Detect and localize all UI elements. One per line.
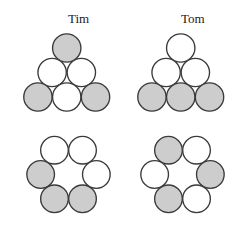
tim-ring-circle-bottom-right [69,185,97,213]
tim-triangle-circle-mid-left [38,58,66,86]
tom-ring-canvas [140,128,225,221]
tom-triangle-circle-bottom-right [195,83,223,111]
tim-ring-circle-top-left [41,136,69,164]
tom-ring-circle-bottom-left [155,185,183,213]
tim-triangle-circle-apex [53,34,81,62]
tom-triangle-circle-mid-right [181,58,209,86]
tom-triangle-circle-bottom-left [138,83,166,111]
tom-ring-circle-top-left [155,136,183,164]
tom-ring [140,128,225,221]
tim-ring [26,128,111,221]
tom-ring-circle-bottom-right [183,185,211,213]
tom-ring-circle-right [197,161,225,189]
tim-ring-circle-top-right [69,136,97,164]
tim-triangle-circle-bottom-left [24,83,52,111]
tim-triangle-circle-mid-right [67,58,95,86]
tom-ring-circle-top-right [183,136,211,164]
tom-triangle [124,26,225,119]
tim-triangle-circle-bottom-right [81,83,109,111]
tom-triangle-circle-mid-left [152,58,180,86]
tim-triangle-canvas [10,26,111,119]
tim-ring-canvas [26,128,111,221]
column-label-tom: Tom [181,12,205,25]
tim-triangle [10,26,111,119]
tom-triangle-circle-bottom-mid [167,83,195,111]
tom-triangle-circle-apex [167,34,195,62]
tim-ring-circle-left [27,161,55,189]
tim-triangle-circle-bottom-mid [53,83,81,111]
tim-ring-circle-right [83,161,111,189]
tom-triangle-canvas [124,26,225,119]
tom-ring-circle-left [141,161,169,189]
tim-ring-circle-bottom-left [41,185,69,213]
circle-packing-figure: TimTom [0,0,240,230]
column-label-tim: Tim [68,12,89,25]
